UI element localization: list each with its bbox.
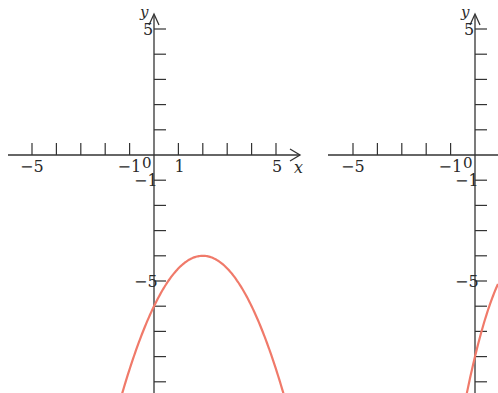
x-tick-label: 1 — [174, 157, 184, 176]
origin-label: 0 — [142, 154, 152, 172]
origin-label: 0 — [463, 154, 473, 172]
y-tick-label: 5 — [143, 20, 153, 39]
left-graph: x−5−115y−5−150 — [8, 3, 303, 393]
y-tick-label: 5 — [464, 20, 474, 39]
y-tick-label: −5 — [455, 272, 479, 291]
y-axis-label: y — [139, 3, 149, 21]
y-axis-label: y — [460, 3, 470, 21]
right-graph: −5−1y−5−150 — [328, 3, 498, 393]
y-tick-label: −5 — [134, 272, 158, 291]
graphs-canvas: x−5−115y−5−150 −5−1y−5−150 — [0, 0, 498, 393]
x-tick-label: 5 — [272, 157, 282, 176]
parabola-curve — [466, 284, 498, 393]
x-tick-label: −5 — [341, 157, 365, 176]
x-axis-label: x — [294, 158, 303, 177]
x-tick-label: −5 — [20, 157, 44, 176]
y-tick-label: −1 — [134, 171, 158, 190]
y-tick-label: −1 — [455, 171, 479, 190]
